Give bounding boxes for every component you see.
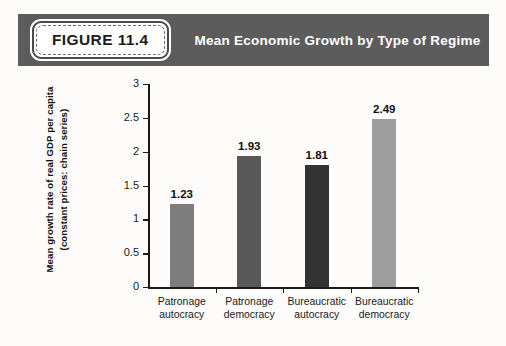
x-axis-category-label: Patronagedemocracy bbox=[216, 295, 284, 321]
figure-title: Mean Economic Growth by Type of Regime bbox=[195, 33, 481, 48]
y-axis-title: Mean growth rate of real GDP per capita … bbox=[43, 75, 70, 285]
y-axis-tick-label: 1 bbox=[133, 212, 139, 224]
y-axis-tick-label: 3 bbox=[133, 77, 139, 89]
figure-number-badge-inner: FIGURE 11.4 bbox=[36, 25, 165, 55]
x-axis-tick bbox=[418, 287, 419, 293]
x-axis-category-label-line: democracy bbox=[351, 308, 419, 321]
y-axis-tick-label: 1.5 bbox=[124, 179, 139, 191]
x-axis-category-label-line: democracy bbox=[216, 308, 284, 321]
y-axis-title-line-2: (constant prices: chain series) bbox=[56, 75, 70, 285]
bar-value-label: 1.81 bbox=[306, 149, 328, 161]
y-axis-title-line-1: Mean growth rate of real GDP per capita bbox=[43, 75, 57, 285]
y-axis-tick: 0 bbox=[143, 287, 148, 288]
figure-header-banner: FIGURE 11.4 Mean Economic Growth by Type… bbox=[18, 14, 489, 66]
chart-area: Mean growth rate of real GDP per capita … bbox=[0, 66, 506, 346]
y-axis-tick-label: 0.5 bbox=[124, 246, 139, 258]
y-axis-tick: 0.5 bbox=[143, 253, 148, 254]
bar-value-label: 1.23 bbox=[171, 188, 193, 200]
bar: 1.93 bbox=[237, 156, 261, 287]
y-axis-tick: 3 bbox=[143, 84, 148, 85]
figure-number-label: FIGURE 11.4 bbox=[52, 31, 149, 48]
x-axis-category-label: Bureaucraticdemocracy bbox=[351, 295, 419, 321]
x-axis-category-label-line: Bureaucratic bbox=[351, 295, 419, 308]
y-axis-tick-label: 2.5 bbox=[124, 111, 139, 123]
x-axis-category-label: Bureaucraticautocracy bbox=[283, 295, 351, 321]
x-axis-category-label-line: autocracy bbox=[148, 308, 216, 321]
x-axis-tick bbox=[216, 287, 217, 293]
y-axis-tick: 2.5 bbox=[143, 118, 148, 119]
x-axis-category-label-line: autocracy bbox=[283, 308, 351, 321]
plot-region: 00.511.522.53 1.231.931.812.49 Patronage… bbox=[148, 84, 418, 287]
x-axis-tick bbox=[351, 287, 352, 293]
y-axis-tick-label: 2 bbox=[133, 145, 139, 157]
x-axis-category-label-line: Patronage bbox=[216, 295, 284, 308]
y-axis-tick: 1.5 bbox=[143, 186, 148, 187]
y-axis-tick: 1 bbox=[143, 219, 148, 220]
x-axis-category-label: Patronageautocracy bbox=[148, 295, 216, 321]
bar: 1.23 bbox=[170, 204, 194, 287]
x-axis-category-label-line: Patronage bbox=[148, 295, 216, 308]
bar-value-label: 2.49 bbox=[373, 103, 395, 115]
y-axis-tick-label: 0 bbox=[133, 280, 139, 292]
figure-number-badge: FIGURE 11.4 bbox=[32, 21, 169, 59]
y-axis-tick: 2 bbox=[143, 152, 148, 153]
bar-value-label: 1.93 bbox=[238, 140, 260, 152]
x-axis-category-label-line: Bureaucratic bbox=[283, 295, 351, 308]
bar: 2.49 bbox=[372, 119, 396, 287]
y-axis-line bbox=[148, 84, 150, 287]
bar: 1.81 bbox=[305, 165, 329, 287]
x-axis-tick bbox=[283, 287, 284, 293]
